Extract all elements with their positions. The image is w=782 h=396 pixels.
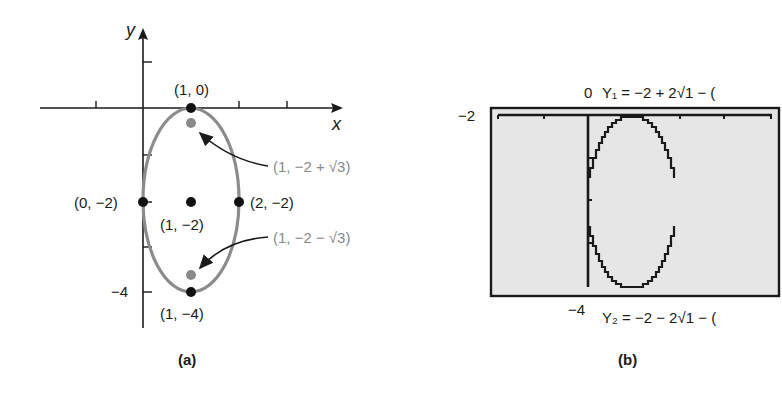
- point-lower-gray: [186, 270, 196, 280]
- point-bottom: [186, 287, 196, 297]
- window-left-label: −2: [458, 107, 475, 124]
- point-right: [234, 197, 244, 207]
- label-left: (0, −2): [74, 194, 118, 211]
- panel-b: 0 Y₁ = −2 + 2√1 − ( −2 −4 Y₂ = −2 − 2√1 …: [458, 84, 779, 368]
- point-top: [186, 103, 196, 113]
- label-lower-gray: (1, −2 − √3): [273, 229, 350, 246]
- point-upper-gray: [186, 118, 196, 128]
- point-center: [186, 197, 196, 207]
- label-bottom: (1, −4): [160, 305, 204, 322]
- window-ymin-label: −4: [568, 301, 585, 318]
- y-axis-label: y: [124, 20, 136, 40]
- window-ymax-label: 0: [584, 84, 592, 101]
- label-right: (2, −2): [250, 194, 294, 211]
- x-axis-label: x: [331, 114, 342, 134]
- panel-a: y x −4 (1, 0) (1, −2 + √3) (0, −2) (1, −…: [40, 20, 350, 368]
- label-top: (1, 0): [174, 81, 209, 98]
- calculator-screen: [491, 108, 779, 296]
- equation-y2: Y₂ = −2 − 2√1 − (: [602, 309, 716, 326]
- caption-b: (b): [618, 351, 637, 368]
- label-center: (1, −2): [160, 216, 204, 233]
- y-tick-label-minus4: −4: [111, 283, 128, 300]
- figure: y x −4 (1, 0) (1, −2 + √3) (0, −2) (1, −…: [0, 0, 782, 396]
- label-upper-gray: (1, −2 + √3): [273, 158, 350, 175]
- equation-y1: Y₁ = −2 + 2√1 − (: [602, 84, 715, 101]
- caption-a: (a): [178, 351, 196, 368]
- point-left: [138, 197, 148, 207]
